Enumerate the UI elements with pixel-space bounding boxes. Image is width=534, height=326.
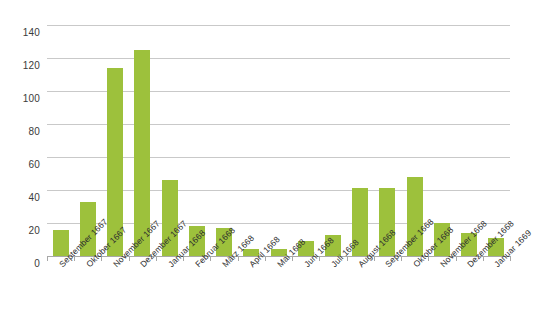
y-axis: 020406080100120140 [0, 25, 40, 256]
y-axis-tick-label: 40 [28, 193, 40, 203]
y-axis-tick-label: 60 [28, 160, 40, 170]
y-axis-tick-label: 20 [28, 226, 40, 236]
bars-layer [47, 25, 510, 256]
y-axis-tick-label: 80 [28, 127, 40, 137]
y-axis-tick-label: 100 [23, 94, 40, 104]
x-axis-labels: September 1667Oktober 1667November 1667D… [47, 262, 517, 326]
y-axis-tick-label: 0 [34, 259, 40, 269]
x-axis-tick [47, 256, 48, 261]
y-axis-tick-label: 140 [23, 28, 40, 38]
y-axis-tick-label: 120 [23, 61, 40, 71]
